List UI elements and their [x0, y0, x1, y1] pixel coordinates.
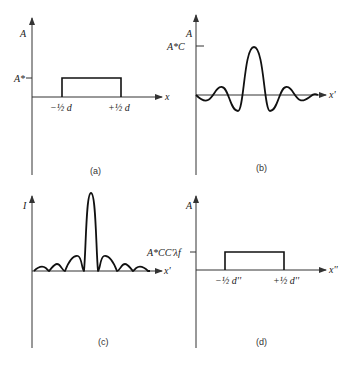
x-axis-label: x' [163, 265, 171, 276]
level-label: A*C [166, 41, 185, 52]
panel-b: A A*C x' (b) [166, 15, 336, 175]
diffraction-figure: A A* x −½ d +½ d (a) A A*C x' (b) I x' (… [0, 0, 357, 365]
left-edge-label: −½ d [50, 102, 73, 113]
left-edge-label: −½ d'' [215, 275, 242, 286]
panel-caption: (b) [256, 163, 267, 173]
x-axis-label: x [164, 91, 170, 102]
x-axis-label: x'' [328, 264, 339, 275]
right-edge-label: +½ d [108, 102, 131, 113]
sinc-squared-intensity-curve [34, 193, 150, 271]
panel-caption: (c) [98, 337, 109, 347]
panel-a: A A* x −½ d +½ d (a) [13, 18, 170, 176]
y-axis-label: A [185, 200, 193, 211]
panel-caption: (d) [256, 337, 267, 347]
level-label: A*CC'λf [146, 247, 182, 258]
x-axis-label: x' [328, 89, 336, 100]
sinc-amplitude-curve [196, 47, 318, 111]
right-edge-label: +½ d'' [273, 275, 300, 286]
level-label: A* [13, 73, 25, 84]
rect-function [225, 252, 284, 270]
panel-c: I x' (c) [22, 193, 171, 348]
y-axis-label: A [19, 28, 27, 39]
y-axis-label: A [185, 28, 193, 39]
y-axis-label: I [22, 200, 27, 211]
rect-function [62, 78, 121, 97]
panel-caption: (a) [90, 166, 101, 176]
panel-d: A A*CC'λf x'' −½ d'' +½ d'' (d) [146, 196, 339, 348]
